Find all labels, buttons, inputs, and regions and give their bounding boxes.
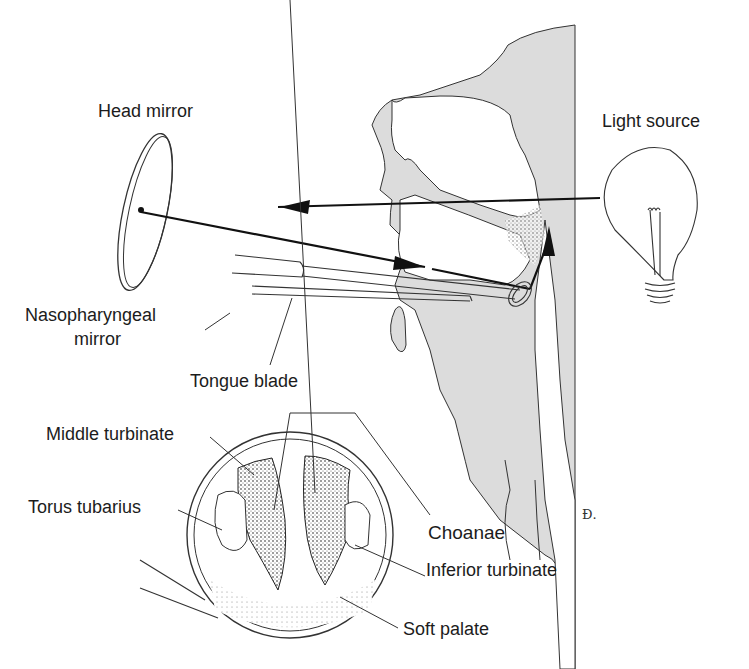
label-soft-palate: Soft palate (403, 620, 489, 638)
label-inferior-turbinate: Inferior turbinate (426, 561, 557, 579)
artist-signature: Ɖ. (582, 507, 597, 522)
label-nasopharyngeal-mirror-line1: Nasopharyngeal (25, 306, 156, 324)
light-bulb-icon (604, 148, 697, 304)
diagram-canvas: Head mirror Light source Nasopharyngeal … (0, 0, 749, 669)
label-middle-turbinate: Middle turbinate (46, 425, 174, 443)
label-choanae: Choanae (428, 523, 505, 542)
label-torus-tubarius: Torus tubarius (28, 498, 141, 516)
mirror-view-inset (140, 432, 393, 638)
label-light-source: Light source (602, 112, 700, 130)
arrow-left-icon (280, 200, 310, 214)
label-tongue-blade: Tongue blade (190, 372, 298, 390)
label-nasopharyngeal-mirror-line2: mirror (74, 330, 121, 348)
label-head-mirror: Head mirror (98, 102, 193, 120)
